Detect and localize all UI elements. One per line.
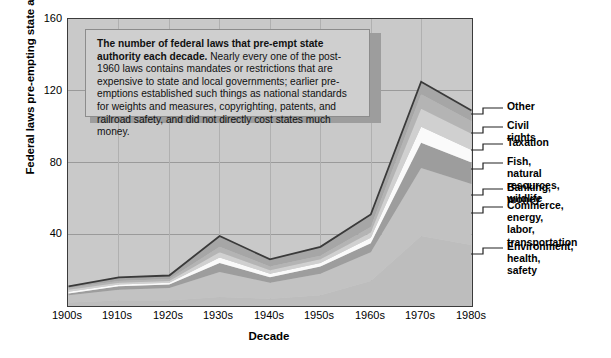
legend-leader-line <box>471 121 505 135</box>
legend-leader-line <box>471 102 505 116</box>
callout-body: Nearly every one of the post-1960 laws c… <box>97 51 347 138</box>
y-tick-80: 80 <box>22 156 62 168</box>
legend-label: Other <box>507 101 535 113</box>
legend-leader-line <box>471 138 505 152</box>
y-tick-120: 120 <box>22 84 62 96</box>
callout-box: The number of federal laws that pre-empt… <box>85 29 370 117</box>
legend-label: Environment, health, safety <box>507 241 573 278</box>
legend-leader-line <box>471 201 505 215</box>
y-tick-160: 160 <box>22 12 62 24</box>
legend-label: Taxation <box>507 137 549 149</box>
legend: OtherCivil rightsTaxationFish, natural r… <box>471 0 611 358</box>
legend-leader-line <box>471 242 505 256</box>
y-axis-ticks: 160 120 80 40 <box>18 0 62 358</box>
legend-leader-line <box>471 183 505 197</box>
legend-leader-line <box>471 157 505 171</box>
x-axis-title: Decade <box>67 330 471 342</box>
y-tick-40: 40 <box>22 227 62 239</box>
chart-figure: Federal laws pre-empting state authority… <box>0 0 611 358</box>
